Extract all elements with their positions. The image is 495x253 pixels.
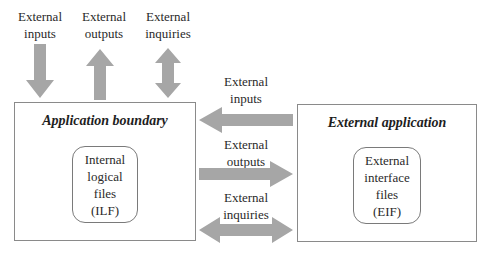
arrow-double-vertical-icon: [155, 48, 181, 98]
arrow-right-icon: [199, 161, 293, 187]
arrow-down-icon: [26, 44, 54, 98]
arrow-left-icon: [199, 107, 293, 133]
flow-arrows: [0, 0, 495, 253]
arrow-double-horizontal-icon: [199, 217, 293, 243]
arrow-up-icon: [86, 49, 114, 100]
